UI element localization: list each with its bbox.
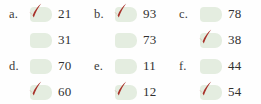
checkbox-e-1[interactable] bbox=[115, 59, 137, 74]
checkbox-a-2[interactable] bbox=[30, 33, 52, 48]
quiz-answer-grid: a. 21 31 b. 93 bbox=[0, 0, 261, 104]
quiz-item-b: b. 93 73 bbox=[85, 0, 170, 52]
quiz-item-label-e: e. bbox=[94, 59, 103, 73]
quiz-item-label-a: a. bbox=[9, 7, 18, 21]
quiz-item-label-d: d. bbox=[9, 59, 19, 73]
checkbox-c-1[interactable] bbox=[200, 7, 222, 22]
checkbox-b-2[interactable] bbox=[115, 33, 137, 48]
checkbox-e-2[interactable] bbox=[115, 85, 137, 100]
option-row-d-1[interactable]: 70 bbox=[30, 53, 85, 79]
option-row-b-2[interactable]: 73 bbox=[115, 27, 170, 53]
option-value-b-2: 73 bbox=[143, 31, 157, 48]
option-row-f-1[interactable]: 44 bbox=[200, 53, 255, 79]
quiz-item-c: c. 78 38 bbox=[170, 0, 255, 52]
quiz-item-d: d. 70 60 bbox=[0, 52, 85, 104]
option-row-a-2[interactable]: 31 bbox=[30, 27, 85, 53]
checkbox-d-2[interactable] bbox=[30, 85, 52, 100]
option-row-c-1[interactable]: 78 bbox=[200, 1, 255, 27]
option-value-a-1: 21 bbox=[58, 5, 72, 22]
option-row-e-2[interactable]: 12 bbox=[115, 79, 170, 104]
option-value-f-2: 54 bbox=[228, 83, 242, 100]
option-value-f-1: 44 bbox=[228, 57, 242, 74]
checkbox-c-2[interactable] bbox=[200, 33, 222, 48]
quiz-item-a: a. 21 31 bbox=[0, 0, 85, 52]
option-value-a-2: 31 bbox=[58, 31, 72, 48]
option-value-c-1: 78 bbox=[228, 5, 242, 22]
option-value-d-1: 70 bbox=[58, 57, 72, 74]
option-row-c-2[interactable]: 38 bbox=[200, 27, 255, 53]
option-value-d-2: 60 bbox=[58, 83, 72, 100]
checkbox-f-1[interactable] bbox=[200, 59, 222, 74]
quiz-item-e: e. 11 12 bbox=[85, 52, 170, 104]
option-row-a-1[interactable]: 21 bbox=[30, 1, 85, 27]
quiz-item-f: f. 44 54 bbox=[170, 52, 255, 104]
quiz-item-label-b: b. bbox=[94, 7, 104, 21]
option-value-e-2: 12 bbox=[143, 83, 157, 100]
quiz-item-label-c: c. bbox=[179, 7, 188, 21]
option-value-b-1: 93 bbox=[143, 5, 157, 22]
option-value-e-1: 11 bbox=[143, 57, 156, 74]
checkbox-f-2[interactable] bbox=[200, 85, 222, 100]
option-row-e-1[interactable]: 11 bbox=[115, 53, 170, 79]
option-row-d-2[interactable]: 60 bbox=[30, 79, 85, 104]
quiz-item-label-f: f. bbox=[179, 59, 187, 73]
checkbox-a-1[interactable] bbox=[30, 7, 52, 22]
option-row-b-1[interactable]: 93 bbox=[115, 1, 170, 27]
option-value-c-2: 38 bbox=[228, 31, 242, 48]
option-row-f-2[interactable]: 54 bbox=[200, 79, 255, 104]
checkbox-d-1[interactable] bbox=[30, 59, 52, 74]
checkbox-b-1[interactable] bbox=[115, 7, 137, 22]
